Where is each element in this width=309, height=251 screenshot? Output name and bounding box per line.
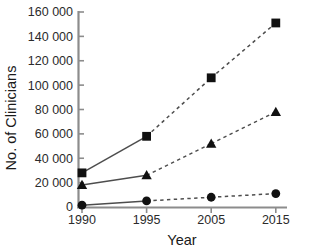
data-point-circle: [78, 201, 87, 210]
x-tick-label: 1995: [133, 213, 161, 227]
data-point-circle: [271, 189, 280, 198]
data-point-circle: [142, 197, 151, 206]
y-tick-label: 100 000: [28, 79, 73, 93]
line-chart: 020 00040 00060 00080 000100 000120 0001…: [0, 0, 309, 251]
x-tick-label: 2015: [262, 213, 290, 227]
data-point-square: [142, 132, 151, 141]
y-tick-label: 20 000: [35, 176, 73, 190]
y-tick-label: 40 000: [35, 152, 73, 166]
x-tick-label: 1990: [68, 213, 96, 227]
data-point-square: [207, 73, 216, 82]
data-point-square: [78, 168, 87, 177]
data-point-square: [271, 19, 280, 28]
data-point-circle: [207, 193, 216, 202]
chart-container: 020 00040 00060 00080 000100 000120 0001…: [0, 0, 309, 251]
y-axis-title: No. of Clinicians: [3, 66, 19, 171]
y-tick-label: 120 000: [28, 54, 73, 68]
y-tick-label: 140 000: [28, 30, 73, 44]
y-tick-label: 160 000: [28, 5, 73, 19]
y-tick-label: 60 000: [35, 127, 73, 141]
x-axis-title: Year: [167, 232, 196, 248]
x-tick-label: 2005: [197, 213, 225, 227]
y-tick-label: 80 000: [35, 103, 73, 117]
y-axis-tick-labels: 020 00040 00060 00080 000100 000120 0001…: [28, 5, 73, 214]
